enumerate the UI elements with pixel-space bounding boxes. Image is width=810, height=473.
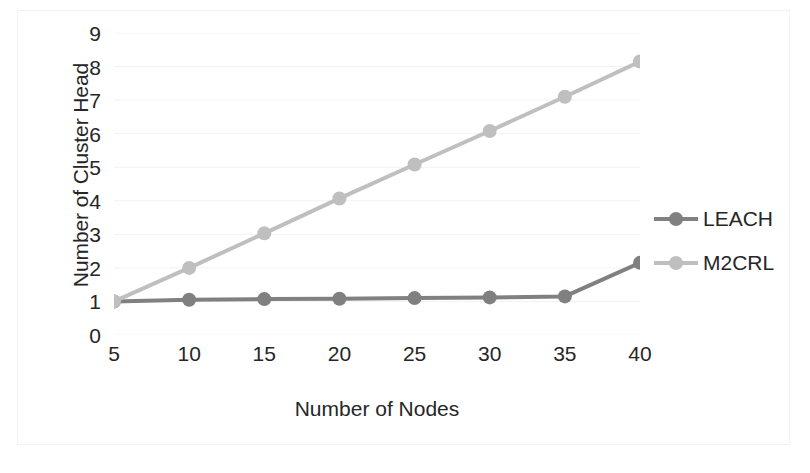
x-tick-label: 10: [161, 341, 217, 366]
x-tick-label: 20: [311, 341, 367, 366]
data-point-marker: [483, 290, 497, 304]
data-point-marker: [483, 124, 497, 138]
data-point-marker: [257, 292, 271, 306]
legend-entry-leach[interactable]: LEACH: [654, 197, 789, 241]
y-tick-label: 1: [73, 291, 101, 312]
legend-swatch-icon: [654, 254, 698, 272]
x-axis-tick-labels: 510152025303540: [114, 341, 640, 371]
y-tick-label: 2: [73, 257, 101, 278]
data-point-marker: [114, 294, 121, 308]
y-tick-label: 3: [73, 224, 101, 245]
data-point-marker: [408, 291, 422, 305]
x-tick-label: 35: [537, 341, 593, 366]
y-tick-label: 8: [73, 56, 101, 77]
chart-figure: Number of Cluster Head 0123456789 510152…: [17, 10, 790, 445]
legend-swatch-icon: [654, 210, 698, 228]
y-tick-label: 6: [73, 123, 101, 144]
data-point-marker: [558, 289, 572, 303]
legend-entry-m2crl[interactable]: M2CRL: [654, 241, 789, 285]
data-point-marker: [558, 90, 572, 104]
x-tick-label: 40: [612, 341, 668, 366]
series-layer: [114, 55, 640, 309]
data-point-marker: [257, 226, 271, 240]
y-tick-label: 7: [73, 90, 101, 111]
x-tick-label: 25: [387, 341, 443, 366]
series-m2crl: [114, 55, 640, 309]
x-tick-label: 5: [86, 341, 142, 366]
y-tick-label: 5: [73, 157, 101, 178]
data-point-marker: [182, 293, 196, 307]
x-axis-title: Number of Nodes: [114, 397, 640, 421]
gridlines: [114, 33, 640, 335]
data-point-marker: [182, 261, 196, 275]
legend-label: M2CRL: [698, 251, 774, 275]
chart-legend: LEACHM2CRL: [654, 197, 789, 285]
x-tick-label: 30: [462, 341, 518, 366]
legend-marker-icon: [669, 256, 683, 270]
data-point-marker: [332, 191, 346, 205]
y-tick-label: 4: [73, 190, 101, 211]
legend-label: LEACH: [698, 207, 773, 231]
plot-svg: [114, 33, 640, 335]
y-tick-label: 9: [73, 23, 101, 44]
plot-area: [114, 33, 640, 335]
data-point-marker: [408, 158, 422, 172]
y-axis-tick-labels: 0123456789: [73, 31, 101, 314]
legend-marker-icon: [669, 212, 683, 226]
data-point-marker: [332, 292, 346, 306]
x-tick-label: 15: [236, 341, 292, 366]
